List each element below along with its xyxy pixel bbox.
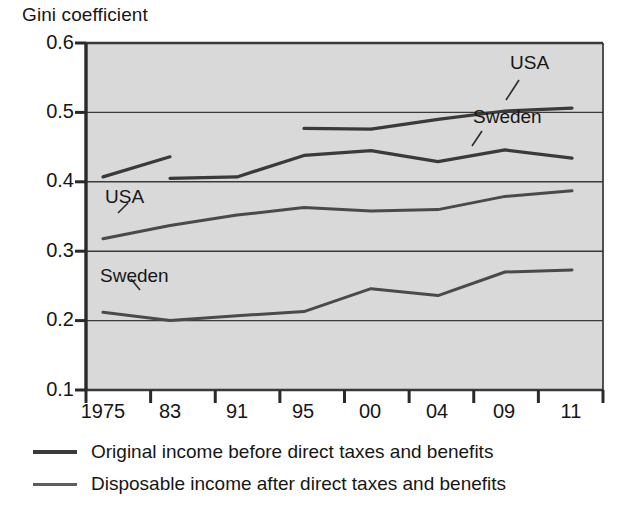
annotation-usa-original: USA xyxy=(510,52,549,74)
gini-coefficient-chart: Gini coefficient 0.6 0.5 0.4 0.3 0.2 0.1… xyxy=(0,0,622,505)
legend-swatch-original xyxy=(33,450,77,454)
annotation-sweden-original: Sweden xyxy=(473,106,542,128)
legend-item-disposable: Disposable income after direct taxes and… xyxy=(33,473,506,495)
x-tick-marks xyxy=(86,390,603,403)
plot-background xyxy=(86,43,603,390)
legend-swatch-disposable xyxy=(33,483,77,486)
legend-item-original: Original income before direct taxes and … xyxy=(33,441,493,463)
annotation-sweden-disposable: Sweden xyxy=(100,265,169,287)
legend-label-original: Original income before direct taxes and … xyxy=(91,441,493,463)
legend-label-disposable: Disposable income after direct taxes and… xyxy=(91,473,506,495)
plot-area xyxy=(0,0,622,505)
annotation-usa-disposable: USA xyxy=(105,186,144,208)
